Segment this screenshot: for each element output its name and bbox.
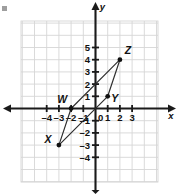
x-axis-tick-label: 2 bbox=[117, 112, 122, 123]
vertex-label-y: Y bbox=[111, 92, 119, 104]
x-axis-tick-label: –4 bbox=[41, 112, 52, 123]
vertex-point-x bbox=[57, 143, 62, 148]
y-axis-tick-label: –3 bbox=[79, 140, 90, 151]
vertex-point-z bbox=[118, 57, 123, 62]
y-axis-tick-label: 5 bbox=[85, 42, 91, 53]
vertex-label-w: W bbox=[57, 93, 68, 105]
y-axis-tick-label: –2 bbox=[79, 127, 90, 138]
y-axis-tick-label: 2 bbox=[85, 79, 90, 90]
y-axis-arrow-down bbox=[92, 190, 100, 194]
y-axis-tick-label: 4 bbox=[85, 54, 91, 65]
x-axis-tick-label: 1 bbox=[105, 112, 111, 123]
y-axis-tick-label: 3 bbox=[85, 66, 90, 77]
vertex-point-w bbox=[69, 106, 74, 111]
vertex-point-y bbox=[105, 94, 110, 99]
x-axis-tick-label: –3 bbox=[54, 112, 65, 123]
y-axis-tick-label: –1 bbox=[79, 115, 90, 126]
coordinate-plane: –4–3–2–1012354321–1–2–3–4xyWXYZ bbox=[0, 0, 180, 194]
vertex-label-z: Z bbox=[124, 44, 132, 56]
y-axis-label: y bbox=[99, 1, 106, 12]
x-axis-arrow-left bbox=[3, 105, 11, 113]
x-axis-label: x bbox=[167, 110, 174, 121]
y-axis-tick-label: –4 bbox=[79, 152, 90, 163]
y-axis-arrow-up bbox=[92, 2, 100, 10]
vertex-label-x: X bbox=[43, 133, 52, 145]
x-axis-tick-label: 3 bbox=[129, 112, 134, 123]
x-axis-tick-label: 0 bbox=[98, 112, 103, 123]
